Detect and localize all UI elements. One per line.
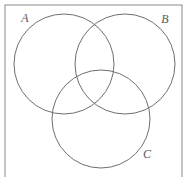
venn-diagram-figure: A B C bbox=[0, 0, 190, 177]
diagram-frame bbox=[5, 5, 182, 177]
set-label-a: A bbox=[20, 11, 29, 25]
set-label-c: C bbox=[143, 147, 152, 161]
set-label-b: B bbox=[161, 12, 169, 26]
venn-circle-c bbox=[52, 70, 150, 168]
venn-diagram-canvas: A B C bbox=[0, 0, 190, 177]
venn-circle-b bbox=[75, 14, 175, 114]
venn-circle-a bbox=[14, 14, 114, 114]
